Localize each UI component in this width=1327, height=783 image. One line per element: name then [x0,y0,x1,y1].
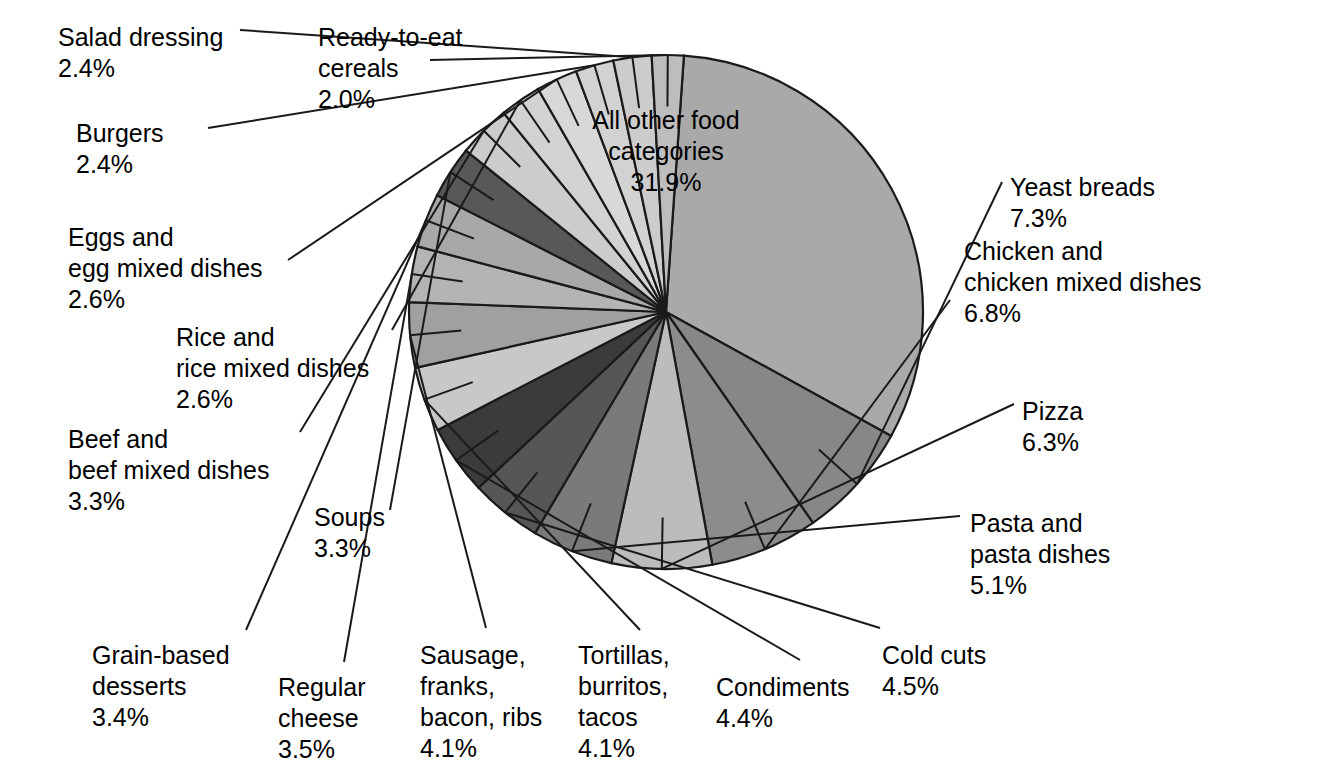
label-line: beef mixed dishes [68,455,270,486]
label-line: 2.4% [58,53,223,84]
label-line: 2.0% [318,84,463,115]
slice-label-salad-dressing: Salad dressing2.4% [58,22,223,84]
label-line: Pizza [1022,396,1083,427]
label-line: Burgers [76,118,164,149]
label-line: Condiments [716,672,849,703]
label-line: 3.5% [278,734,366,765]
label-line: Eggs and [68,222,263,253]
slice-label-rice-and-rice-mixed-dishes: Rice andrice mixed dishes2.6% [176,322,369,415]
label-line: rice mixed dishes [176,353,369,384]
label-line: 4.1% [578,733,670,764]
label-line: franks, [420,671,542,702]
label-line: 2.4% [76,149,164,180]
slice-label-sausage-franks-bacon-ribs: Sausage,franks,bacon, ribs4.1% [420,640,542,764]
label-line: Cold cuts [882,640,986,671]
label-line: egg mixed dishes [68,253,263,284]
label-line: 3.3% [68,486,270,517]
pie-chart-figure: All other foodcategories31.9% Salad dres… [0,0,1327,783]
label-line: 7.3% [1010,203,1155,234]
label-line: Chicken and [964,236,1202,267]
label-line: Salad dressing [58,22,223,53]
label-line: Rice and [176,322,369,353]
label-line: chicken mixed dishes [964,267,1202,298]
label-line: cheese [278,703,366,734]
label-line: Tortillas, [578,640,670,671]
label-line: 3.4% [92,702,230,733]
label-line: Soups [314,502,385,533]
label-line: 5.1% [970,570,1110,601]
label-line: 4.1% [420,733,542,764]
slice-label-chicken-and-chicken-mixed-dishes: Chicken andchicken mixed dishes6.8% [964,236,1202,329]
label-line: Beef and [68,424,270,455]
slice-label-pasta-and-pasta-dishes: Pasta andpasta dishes5.1% [970,508,1110,601]
slice-label-cold-cuts: Cold cuts4.5% [882,640,986,702]
label-line: All other food [526,105,806,136]
label-line: 2.6% [176,384,369,415]
label-line: 3.3% [314,533,385,564]
slice-label-all-other-food-categories: All other foodcategories31.9% [526,105,806,198]
slice-label-yeast-breads: Yeast breads7.3% [1010,172,1155,234]
slice-label-soups: Soups3.3% [314,502,385,564]
label-line: 4.5% [882,671,986,702]
label-line: Sausage, [420,640,542,671]
label-line: 6.3% [1022,427,1083,458]
label-line: bacon, ribs [420,702,542,733]
label-line: Pasta and [970,508,1110,539]
slice-label-ready-to-eat-cereals: Ready-to-eatcereals2.0% [318,22,463,115]
leader-line [246,220,426,630]
label-line: Ready-to-eat [318,22,463,53]
slice-label-beef-and-beef-mixed-dishes: Beef andbeef mixed dishes3.3% [68,424,270,517]
label-line: desserts [92,671,230,702]
label-line: burritos, [578,671,670,702]
label-line: 2.6% [68,284,263,315]
slice-label-tortillas-burritos-tacos: Tortillas,burritos,tacos4.1% [578,640,670,764]
slice-label-pizza: Pizza6.3% [1022,396,1083,458]
label-line: cereals [318,53,463,84]
slice-label-condiments: Condiments4.4% [716,672,849,734]
slice-label-regular-cheese: Regularcheese3.5% [278,672,366,765]
label-line: 6.8% [964,298,1202,329]
label-line: 31.9% [526,167,806,198]
label-line: Yeast breads [1010,172,1155,203]
label-line: 4.4% [716,703,849,734]
slice-label-eggs-and-egg-mixed-dishes: Eggs andegg mixed dishes2.6% [68,222,263,315]
label-line: tacos [578,702,670,733]
slice-label-grain-based-desserts: Grain-baseddesserts3.4% [92,640,230,733]
slice-label-burgers: Burgers2.4% [76,118,164,180]
label-line: Regular [278,672,366,703]
label-line: categories [526,136,806,167]
label-line: pasta dishes [970,539,1110,570]
label-line: Grain-based [92,640,230,671]
